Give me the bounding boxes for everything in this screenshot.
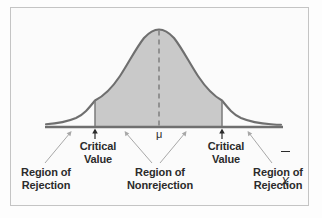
label-critical-value-left: Critical Value: [68, 140, 128, 165]
label-region-of-nonrejection: Region of Nonrejection: [108, 166, 212, 191]
label-mu-symbol: μ: [148, 128, 170, 141]
x-bar-glyph: X: [274, 177, 296, 188]
critical-value-arrow-left: [92, 129, 98, 139]
label-region-of-rejection-left: Region of Rejection: [8, 166, 84, 191]
label-critical-value-right: Critical Value: [196, 140, 256, 165]
statistics-figure: Region of Rejection Critical Value Regio…: [0, 0, 322, 218]
label-x-bar: X: [274, 126, 296, 213]
critical-value-arrow-right: [219, 129, 225, 139]
x-bar-overline: [281, 151, 290, 152]
